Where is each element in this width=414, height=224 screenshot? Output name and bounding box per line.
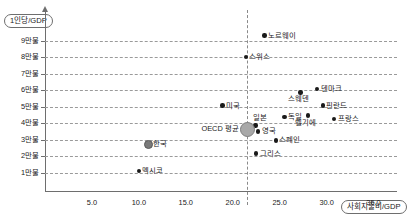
y-tick-label: 9만불 <box>0 37 39 45</box>
y-tick-mark <box>41 123 45 124</box>
y-tick-mark <box>41 74 45 75</box>
x-tick-label: 20.0 <box>213 199 253 207</box>
gridline <box>45 173 397 174</box>
data-point-label: 핀란드 <box>326 102 347 110</box>
y-tick-label: 1만불 <box>0 169 39 177</box>
data-point-label: 미국 <box>226 102 240 110</box>
data-point-label: 노르웨이 <box>268 32 296 40</box>
data-point-label: 스위스 <box>249 53 270 61</box>
y-tick-label: 5만불 <box>0 103 39 111</box>
y-tick-label: 8만불 <box>0 53 39 61</box>
x-tick-label: 35.0 <box>354 199 394 207</box>
plot-area: 노르웨이스위스덴마크스웨덴핀란드미국독일벨기에프랑스일본영국OECD 평균스페인… <box>45 24 397 189</box>
data-point-label: 일본 <box>253 114 267 122</box>
data-point-label: 덴마크 <box>321 85 342 93</box>
scatter-chart: 1인당/GDP 사회지출비/GDP 노르웨이스위스덴마크스웨덴핀란드미국독일벨기… <box>0 0 414 224</box>
y-tick-label: 4만불 <box>0 119 39 127</box>
data-point-marker <box>240 122 255 137</box>
gridline <box>45 74 397 75</box>
y-tick-label: 6만불 <box>0 86 39 94</box>
data-point-marker <box>220 103 225 108</box>
y-tick-mark <box>41 90 45 91</box>
data-point-label: 한국 <box>153 140 167 148</box>
data-point-label: 프랑스 <box>338 115 359 123</box>
gridline <box>45 90 397 91</box>
y-tick-mark <box>41 41 45 42</box>
data-point-marker <box>262 33 267 38</box>
data-point-marker <box>137 169 142 174</box>
data-point-marker <box>274 138 279 143</box>
data-point-label: 벨기에 <box>295 119 316 127</box>
x-axis-line <box>45 191 397 192</box>
data-point-label: 그리스 <box>260 150 281 158</box>
y-tick-mark <box>41 156 45 157</box>
gridline <box>45 57 397 58</box>
y-tick-label: 2만불 <box>0 152 39 160</box>
data-point-marker <box>256 129 261 134</box>
y-tick-label: 7만불 <box>0 70 39 78</box>
x-tick-label: 15.0 <box>166 199 206 207</box>
gridline <box>45 41 397 42</box>
data-point-label: 스페인 <box>279 136 300 144</box>
y-tick-mark <box>41 57 45 58</box>
data-point-marker <box>332 117 337 122</box>
y-tick-mark <box>41 173 45 174</box>
data-point-label: 영국 <box>262 127 276 135</box>
y-tick-mark <box>41 140 45 141</box>
data-point-label: 스웨덴 <box>288 95 309 103</box>
y-tick-mark <box>41 107 45 108</box>
data-point-marker <box>144 140 153 149</box>
y-tick-label: 3만불 <box>0 136 39 144</box>
x-tick-label: 25.0 <box>260 199 300 207</box>
x-tick-label: 10.0 <box>119 199 159 207</box>
gridline <box>45 156 397 157</box>
gridline <box>45 140 397 141</box>
data-point-label: 멕시코 <box>142 167 163 175</box>
x-tick-label: 30.0 <box>307 199 347 207</box>
data-point-marker <box>321 103 326 108</box>
data-point-marker <box>282 115 287 120</box>
x-tick-label: 5.0 <box>72 199 112 207</box>
oecd-average-reference-line <box>247 10 248 205</box>
data-point-label: OECD 평균 <box>201 125 238 133</box>
